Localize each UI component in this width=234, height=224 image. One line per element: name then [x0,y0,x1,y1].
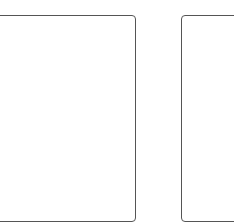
left-panel [0,15,136,222]
right-panel [181,15,234,222]
